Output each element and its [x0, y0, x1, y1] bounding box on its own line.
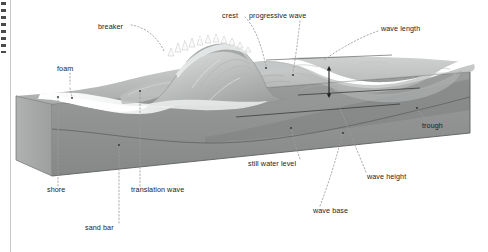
label-wave-height: wave height [367, 173, 406, 180]
label-progressive-wave: progressive wave [249, 12, 306, 19]
label-foam: foam [57, 65, 73, 72]
label-wave-base: wave base [313, 207, 348, 214]
leader-breaker [131, 25, 164, 51]
label-still-water-level: still water level [248, 160, 296, 167]
label-wave-length: wave length [381, 25, 420, 32]
block-left-face [16, 96, 52, 176]
label-trough: trough [422, 122, 443, 129]
label-translation-wave: translation wave [131, 186, 184, 193]
label-shore: shore [47, 186, 65, 193]
label-sand-bar: sand bar [85, 224, 114, 231]
page-margin-rule [10, 0, 11, 252]
scan-edge-artifact [0, 0, 7, 252]
label-crest: crest [222, 12, 238, 19]
wave-diagram-illustration [0, 0, 488, 252]
wave-diagram-figure: breaker crest progressive wave wave leng… [0, 0, 488, 252]
label-breaker: breaker [98, 23, 123, 30]
